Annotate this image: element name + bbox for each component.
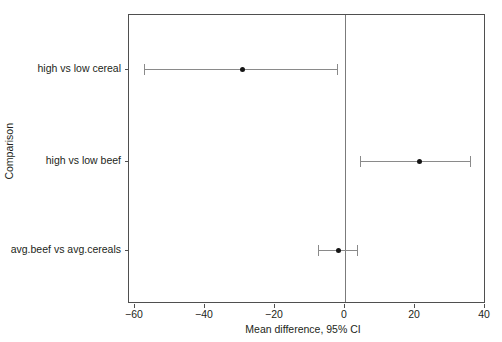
plot-area: [128, 14, 485, 303]
x-axis-tick-label: 40: [478, 309, 490, 320]
y-axis-title: Comparison: [2, 0, 16, 303]
ci-cap-high: [470, 156, 471, 167]
x-axis-tick-label: −60: [125, 309, 143, 320]
y-axis-title-text: Comparison: [4, 123, 15, 180]
ci-cap-low: [360, 156, 361, 167]
ci-cap-low: [144, 64, 145, 75]
ci-cap-low: [318, 245, 319, 256]
forest-plot-figure: Comparison high vs low cerealhigh vs low…: [0, 0, 502, 342]
y-axis-category-label: avg.beef vs avg.cereals: [11, 244, 121, 255]
y-axis-tick: [125, 250, 129, 251]
x-axis-title-text: Mean difference, 95% CI: [245, 324, 360, 335]
y-axis-tick: [125, 161, 129, 162]
x-axis-tick-label: −20: [265, 309, 283, 320]
reference-line-zero: [345, 15, 346, 302]
x-axis-title: Mean difference, 95% CI: [0, 324, 502, 335]
y-axis-category-label: high vs low cereal: [38, 63, 121, 74]
x-axis-tick-label: 0: [341, 309, 347, 320]
ci-cap-high: [337, 64, 338, 75]
point-estimate-marker[interactable]: [336, 248, 341, 253]
x-axis-tick-label: −40: [195, 309, 213, 320]
point-estimate-marker[interactable]: [417, 159, 422, 164]
x-axis-tick-label: 20: [408, 309, 420, 320]
y-axis-category-label: high vs low beef: [46, 155, 121, 166]
point-estimate-marker[interactable]: [240, 67, 245, 72]
y-axis-tick: [125, 69, 129, 70]
ci-whisker-line: [360, 161, 470, 162]
ci-cap-high: [357, 245, 358, 256]
